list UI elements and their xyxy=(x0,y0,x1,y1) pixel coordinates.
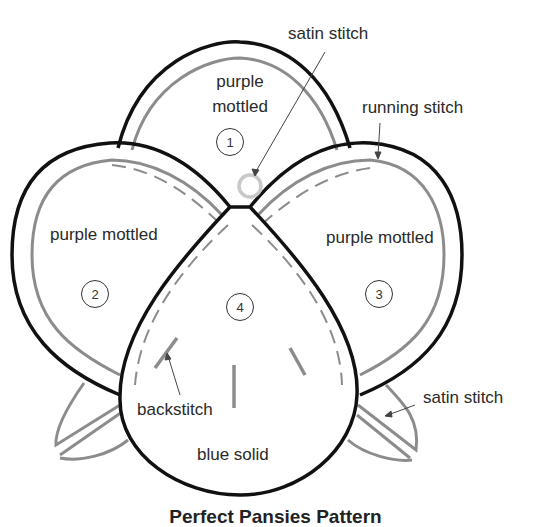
petal-4-number: 4 xyxy=(226,293,254,321)
backstitch-label: backstitch xyxy=(137,400,213,420)
petal-3-number: 3 xyxy=(365,280,393,308)
petal-1-fabric-line2: mottled xyxy=(200,97,280,117)
petal-2-number: 2 xyxy=(81,280,109,308)
petal-1-fabric-line1: purple xyxy=(200,72,280,92)
petal-3-fabric: purple mottled xyxy=(326,228,434,248)
diagram-caption: Perfect Pansies Pattern xyxy=(0,506,551,527)
satin-stitch-top-label: satin stitch xyxy=(288,24,368,44)
running-stitch-label: running stitch xyxy=(362,98,463,118)
petal-2-fabric: purple mottled xyxy=(50,225,158,245)
satin-stitch-right-label: satin stitch xyxy=(423,388,503,408)
satin-stitch-center xyxy=(239,175,261,197)
petal-4-fabric: blue solid xyxy=(197,445,269,465)
petal-1-number: 1 xyxy=(216,128,244,156)
